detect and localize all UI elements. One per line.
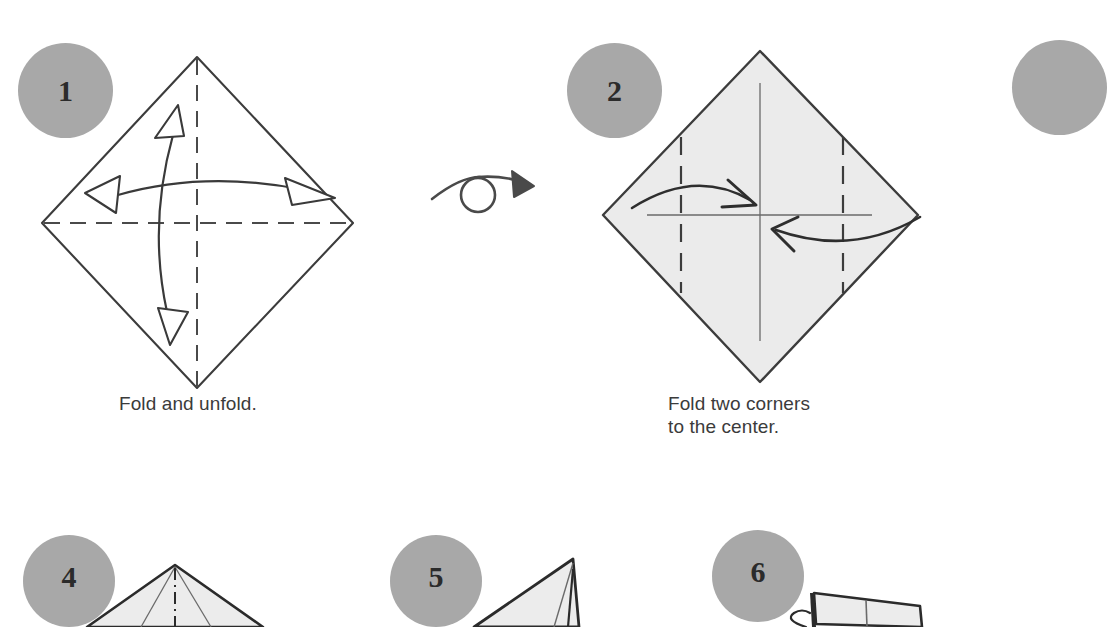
turn-over-arrowhead <box>512 171 534 197</box>
step-5-diagram <box>480 555 660 627</box>
turn-over-arrow-tail <box>432 177 480 199</box>
step-1-diagram <box>30 50 370 395</box>
inner-crease <box>866 600 867 627</box>
step-2-caption: Fold two corners to the center. <box>668 392 928 438</box>
paper-outline <box>814 593 922 627</box>
spine-edge <box>812 593 814 627</box>
step-number-6: 6 <box>751 557 766 587</box>
paper-outline <box>474 559 579 627</box>
step-number-5: 5 <box>429 562 444 592</box>
turn-over-loop-circle <box>461 178 495 212</box>
turn-over-symbol <box>430 155 550 240</box>
step-number-4: 4 <box>62 562 77 592</box>
step-1-caption: Fold and unfold. <box>119 392 399 415</box>
step-badge-3: 3 <box>1012 40 1107 135</box>
fold-arrow-curve <box>791 611 810 627</box>
step-2-diagram <box>590 45 935 393</box>
step-badge-5: 5 <box>390 535 482 627</box>
step-6-diagram <box>780 580 1060 627</box>
step-4-diagram <box>95 560 335 627</box>
